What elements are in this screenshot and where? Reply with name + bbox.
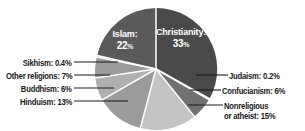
pie-callout-hinduism: Hinduism: 13% bbox=[20, 97, 72, 107]
pie-callout-buddhism: Buddhism: 6% bbox=[21, 84, 72, 94]
pie-callout-other-religions: Other religions: 7% bbox=[6, 71, 72, 81]
pie-chart-figure: Islam: 22% Christianity: 33% Sikhism: 0.… bbox=[0, 0, 305, 131]
pie-callout-confucianism: Confucianism: 6% bbox=[222, 86, 285, 96]
pie-callout-nonreligious: Nonreligious or atheist: 15% bbox=[224, 101, 297, 122]
pie-callout-nonreligious-line1: Nonreligious bbox=[224, 101, 268, 111]
pie-slice-label-islam: Islam: 22% bbox=[101, 28, 150, 52]
pie-slice-label-islam-value: 22% bbox=[101, 40, 150, 53]
pie-slice-label-islam-percent-sign: % bbox=[127, 42, 133, 51]
pie-callout-nonreligious-line2: or atheist: 15% bbox=[224, 111, 275, 121]
pie-slice-label-christianity-value: 33% bbox=[152, 38, 210, 51]
pie-callout-sikhism: Sikhism: 0.4% bbox=[23, 58, 72, 68]
pie-slice-label-christianity-percent-sign: % bbox=[183, 40, 189, 49]
pie-slice-label-christianity-number: 33 bbox=[173, 37, 184, 49]
pie-slice-label-christianity: Christianity: 33% bbox=[152, 26, 210, 50]
pie-callout-judaism: Judaism: 0.2% bbox=[229, 71, 280, 81]
pie-slice-label-islam-number: 22 bbox=[117, 39, 128, 51]
